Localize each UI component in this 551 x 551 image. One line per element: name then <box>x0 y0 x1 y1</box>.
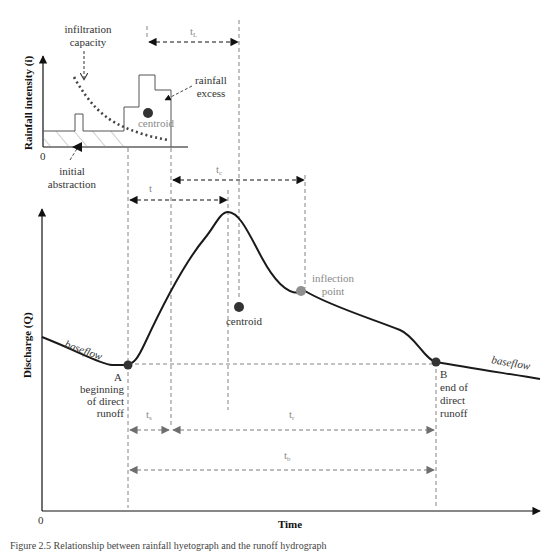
time-axis-title: Time <box>278 518 302 530</box>
hydrograph-centroid-marker <box>234 302 244 312</box>
hydrograph-curve <box>42 212 540 379</box>
ts-label: ts <box>146 408 152 422</box>
rainfall-excess-label-2: excess <box>197 87 226 99</box>
point-a-desc-1: beginning <box>80 383 124 395</box>
point-b-desc-3: runoff <box>440 407 468 419</box>
point-a-desc-2: of direct <box>87 395 124 407</box>
tb-label: tb <box>284 449 291 463</box>
point-b-label: B <box>440 368 447 380</box>
tc-label: tc <box>216 163 222 177</box>
rainfall-panel: 0 Rainfall intensity (i) infiltration ca… <box>22 23 227 190</box>
hydrograph-panel: 0 Time Discharge (Q) baseflow baseflow A… <box>21 209 540 530</box>
point-a-desc-3: runoff <box>97 407 125 419</box>
initial-abstraction-area <box>43 131 126 147</box>
figure-caption: Figure 2.5 Relationship between rainfall… <box>10 540 326 551</box>
inflection-point-label-1: inflection <box>312 272 355 284</box>
baseflow-right-label: baseflow <box>491 353 532 372</box>
tl-label: tL <box>190 25 197 39</box>
discharge-axis-title: Discharge (Q) <box>21 312 34 378</box>
initial-abstraction-label-1: initial <box>59 165 85 177</box>
rainfall-origin-label: 0 <box>40 150 46 162</box>
initial-abstraction-label-2: abstraction <box>48 178 97 190</box>
rainfall-centroid-label: centroid <box>138 117 175 129</box>
tr-label: tr <box>289 408 295 422</box>
point-b-desc-1: end of <box>440 381 468 393</box>
baseflow-left-label: baseflow <box>63 338 104 363</box>
infiltration-capacity-label-2: capacity <box>70 36 107 48</box>
hydrograph-centroid-label: centroid <box>226 315 263 327</box>
rainfall-excess-label-1: rainfall <box>195 74 227 86</box>
infiltration-capacity-label-1: infiltration <box>64 23 112 35</box>
point-a-label: A <box>114 371 122 383</box>
hydrograph-origin-label: 0 <box>38 514 44 526</box>
time-intervals: tL tc t ts tr tb <box>130 25 434 470</box>
point-b-desc-2: direct <box>440 394 465 406</box>
guide-lines <box>128 20 436 508</box>
inflection-point-label-2: point <box>322 285 345 297</box>
inflection-point-marker <box>296 286 306 296</box>
point-b-marker <box>432 358 441 367</box>
t-label: t <box>149 182 152 194</box>
rainfall-excess-arrow-icon <box>165 86 192 100</box>
point-a-marker <box>124 361 133 370</box>
rainfall-y-axis-title: Rainfall intensity (i) <box>22 56 35 150</box>
